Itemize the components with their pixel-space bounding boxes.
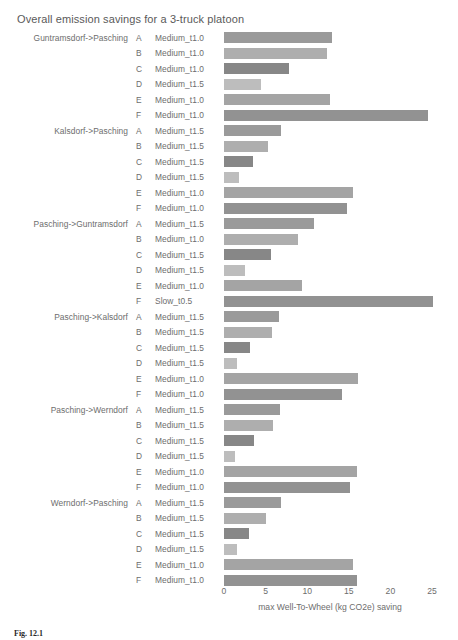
speed-label: Medium_t1.5: [155, 79, 204, 89]
bar: [224, 187, 353, 198]
truck-label: C: [136, 529, 146, 539]
speed-label: Slow_t0.5: [155, 296, 192, 306]
truck-label: E: [136, 374, 146, 384]
bar-track: [224, 358, 458, 369]
bar-track: [224, 141, 458, 152]
truck-label: E: [136, 95, 146, 105]
truck-label: E: [136, 188, 146, 198]
bar-track: [224, 125, 458, 136]
truck-label: F: [136, 110, 146, 120]
bar-track: [224, 94, 458, 105]
chart-row: DMedium_t1.5: [0, 77, 458, 93]
bar-track: [224, 342, 458, 353]
bar: [224, 575, 357, 586]
bar: [224, 482, 350, 493]
x-axis: 0510152025 max Well-To-Wheel (kg CO2e) s…: [0, 586, 458, 626]
speed-label: Medium_t1.5: [155, 529, 204, 539]
bar-track: [224, 32, 458, 43]
bar-track: [224, 559, 458, 570]
chart-row: EMedium_t1.0: [0, 185, 458, 201]
bar-chart-plot-area: Guntramsdorf->PaschingAMedium_t1.0BMediu…: [0, 30, 458, 588]
speed-label: Medium_t1.0: [155, 281, 204, 291]
bar-track: [224, 327, 458, 338]
truck-label: E: [136, 281, 146, 291]
bar-track: [224, 466, 458, 477]
speed-label: Medium_t1.0: [155, 64, 204, 74]
truck-label: B: [136, 234, 146, 244]
bar: [224, 327, 272, 338]
chart-row: DMedium_t1.5: [0, 356, 458, 372]
speed-label: Medium_t1.0: [155, 482, 204, 492]
bar-track: [224, 296, 458, 307]
chart-title: Overall emission savings for a 3-truck p…: [17, 13, 244, 25]
speed-label: Medium_t1.0: [155, 188, 204, 198]
bar-track: [224, 265, 458, 276]
bar: [224, 528, 249, 539]
truck-label: C: [136, 250, 146, 260]
chart-row: CMedium_t1.5: [0, 340, 458, 356]
chart-row: DMedium_t1.5: [0, 263, 458, 279]
chart-row: Pasching->GuntramsdorfAMedium_t1.5: [0, 216, 458, 232]
speed-label: Medium_t1.0: [155, 234, 204, 244]
bar: [224, 141, 268, 152]
bar-track: [224, 79, 458, 90]
bar: [224, 420, 273, 431]
bar-track: [224, 482, 458, 493]
speed-label: Medium_t1.5: [155, 420, 204, 430]
chart-row: CMedium_t1.5: [0, 247, 458, 263]
x-tick-label: 20: [386, 586, 396, 596]
bar-track: [224, 218, 458, 229]
truck-label: B: [136, 48, 146, 58]
chart-row: FMedium_t1.0: [0, 480, 458, 496]
bar-track: [224, 249, 458, 260]
bar: [224, 48, 327, 59]
bar-track: [224, 373, 458, 384]
speed-label: Medium_t1.5: [155, 141, 204, 151]
group-label: Pasching->Werndorf: [0, 405, 128, 415]
figure-caption-label: Fig. 12.1: [14, 629, 43, 638]
chart-row: FSlow_t0.5: [0, 294, 458, 310]
bar-track: [224, 435, 458, 446]
truck-label: C: [136, 343, 146, 353]
x-tick-label: 25: [427, 586, 437, 596]
bar: [224, 296, 433, 307]
bar: [224, 110, 428, 121]
truck-label: F: [136, 296, 146, 306]
chart-row: Pasching->KalsdorfAMedium_t1.5: [0, 309, 458, 325]
truck-label: A: [136, 126, 146, 136]
chart-row: DMedium_t1.5: [0, 170, 458, 186]
x-axis-title: max Well-To-Wheel (kg CO2e) saving: [224, 602, 436, 612]
chart-row: BMedium_t1.5: [0, 511, 458, 527]
bar-track: [224, 203, 458, 214]
bar: [224, 280, 302, 291]
bar: [224, 559, 353, 570]
bar-track: [224, 48, 458, 59]
truck-label: F: [136, 203, 146, 213]
chart-row: Pasching->WerndorfAMedium_t1.5: [0, 402, 458, 418]
bar: [224, 513, 266, 524]
speed-label: Medium_t1.0: [155, 389, 204, 399]
speed-label: Medium_t1.5: [155, 219, 204, 229]
chart-row: EMedium_t1.0: [0, 278, 458, 294]
bar: [224, 63, 289, 74]
chart-row: BMedium_t1.5: [0, 418, 458, 434]
bar: [224, 373, 358, 384]
bar: [224, 451, 235, 462]
speed-label: Medium_t1.0: [155, 203, 204, 213]
chart-row: FMedium_t1.0: [0, 108, 458, 124]
truck-label: A: [136, 498, 146, 508]
bar: [224, 404, 280, 415]
chart-row: CMedium_t1.5: [0, 154, 458, 170]
bar-track: [224, 575, 458, 586]
bar: [224, 311, 279, 322]
x-tick-label: 10: [302, 586, 312, 596]
speed-label: Medium_t1.5: [155, 265, 204, 275]
speed-label: Medium_t1.5: [155, 343, 204, 353]
truck-label: A: [136, 405, 146, 415]
bar: [224, 497, 281, 508]
speed-label: Medium_t1.5: [155, 451, 204, 461]
bar: [224, 234, 298, 245]
bar-track: [224, 156, 458, 167]
truck-label: B: [136, 327, 146, 337]
bar: [224, 156, 253, 167]
